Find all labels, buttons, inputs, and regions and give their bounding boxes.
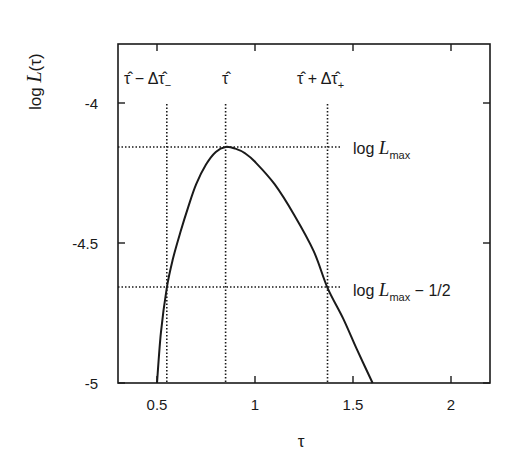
annotation-log-lmax-half: log Lmax − 1/2 (353, 279, 451, 303)
reference-lines (118, 104, 342, 383)
y-tick-label: -4.5 (72, 235, 98, 252)
y-axis-title: log L(τ) (23, 53, 45, 110)
annotation-log-lmax: log Lmax (353, 137, 411, 161)
annotation-tau-plus: τ̂ + Δτ̂+ (297, 70, 344, 91)
x-tick-label: 2 (447, 396, 455, 413)
likelihood-chart: 0.511.52-4-4.5-5 τ̂ − Δτ̂− τ̂ τ̂ + Δτ̂+ … (0, 0, 520, 472)
x-tick-label: 1 (251, 396, 259, 413)
y-tick-label: -4 (85, 95, 98, 112)
x-axis-title: τ (298, 432, 305, 451)
likelihood-curve (157, 147, 373, 383)
axis-ticks (118, 44, 490, 383)
plot-frame (118, 44, 490, 383)
tick-labels: 0.511.52-4-4.5-5 (72, 95, 455, 413)
x-tick-label: 0.5 (147, 396, 168, 413)
annotation-tau-hat: τ̂ (222, 70, 231, 87)
y-tick-label: -5 (85, 375, 98, 392)
annotation-tau-minus: τ̂ − Δτ̂− (124, 70, 171, 91)
x-tick-label: 1.5 (343, 396, 364, 413)
